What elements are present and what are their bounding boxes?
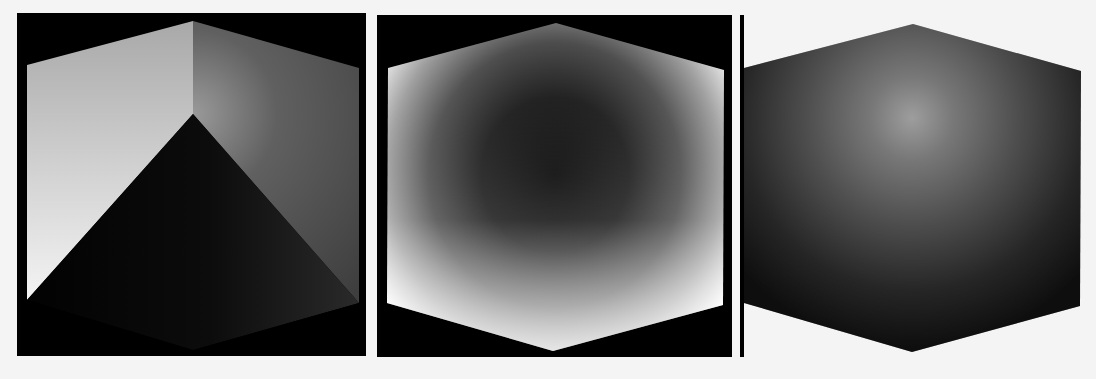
highlight-cube-image [740,0,1096,379]
hard-shadow-cube-image [0,0,370,379]
panel-highlight-cube [740,0,1096,379]
edge-glow-cube-image [370,0,740,379]
panel-edge-glow-cube [370,0,740,379]
panel-2-frame-edge [740,15,744,357]
figure-stage [0,0,1096,379]
panel-hard-shadow-cube [0,0,370,379]
